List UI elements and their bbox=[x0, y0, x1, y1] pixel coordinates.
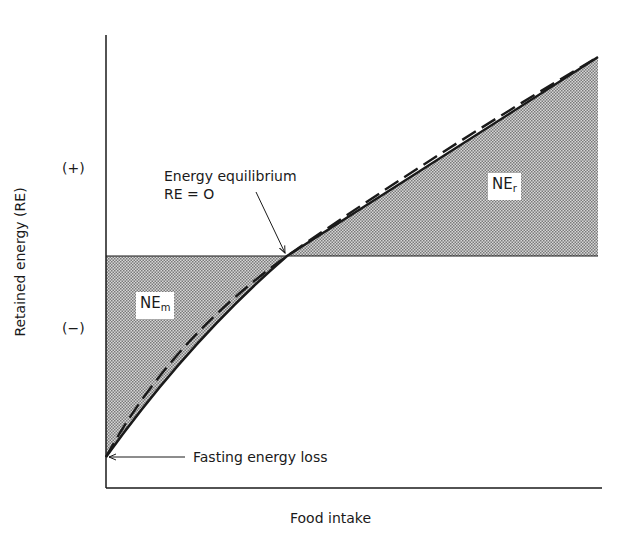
equilibrium-arrow bbox=[256, 192, 285, 253]
y-axis-label: Retained energy (RE) bbox=[12, 187, 28, 336]
ne-m-sub: m bbox=[161, 302, 171, 313]
positive-marker: (+) bbox=[62, 160, 85, 176]
ne-r-sub: r bbox=[513, 183, 517, 194]
fasting-energy-loss-label: Fasting energy loss bbox=[193, 449, 328, 465]
ne-m-main: NE bbox=[140, 294, 161, 312]
energy-diagram bbox=[0, 0, 634, 548]
negative-marker: (−) bbox=[62, 320, 85, 336]
ne-m-label: NEm bbox=[136, 292, 174, 319]
ne-r-main: NE bbox=[492, 175, 513, 193]
equilibrium-label-line2: RE = O bbox=[164, 186, 214, 202]
x-axis-label: Food intake bbox=[290, 510, 371, 526]
ne-r-label: NEr bbox=[488, 173, 521, 200]
ne-m-shaded-region bbox=[106, 256, 287, 457]
equilibrium-label-line1: Energy equilibrium bbox=[164, 168, 297, 184]
